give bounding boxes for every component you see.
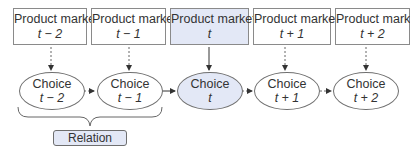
choice-t: Choice t bbox=[177, 72, 243, 110]
choice-t-minus-1: Choice t − 1 bbox=[97, 72, 163, 110]
choice-t-minus-2: Choice t − 2 bbox=[19, 72, 85, 110]
curly-brace-icon bbox=[18, 107, 162, 126]
choice-t-plus-1: Choice t + 1 bbox=[254, 72, 320, 110]
choice-label: Choice bbox=[98, 77, 162, 91]
choice-t-plus-2: Choice t + 2 bbox=[333, 72, 399, 110]
choice-time: t + 2 bbox=[334, 91, 398, 105]
relation-box: Relation bbox=[53, 130, 127, 146]
choice-time: t − 2 bbox=[20, 91, 84, 105]
choice-label: Choice bbox=[178, 77, 242, 91]
choice-time: t + 1 bbox=[255, 91, 319, 105]
choice-time: t bbox=[178, 91, 242, 105]
choice-label: Choice bbox=[334, 77, 398, 91]
choice-label: Choice bbox=[255, 77, 319, 91]
choice-label: Choice bbox=[20, 77, 84, 91]
choice-time: t − 1 bbox=[98, 91, 162, 105]
